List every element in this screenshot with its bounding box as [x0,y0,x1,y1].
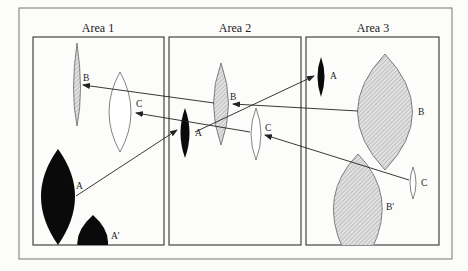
area3-label-C: C [421,178,427,188]
area2-shape-A [181,108,190,158]
area2-shape-B [214,63,229,145]
area1-shape-A-prime [77,215,108,249]
area-2-title: Area 2 [219,21,251,35]
area1-shape-A [41,149,75,245]
area2-shape-C [251,108,261,160]
area1-label-A: A [76,181,83,191]
area3-label-B: B [418,107,424,117]
arrow-b-area2-to-area1 [83,85,214,103]
area1-label-B: B [83,73,89,83]
area1-label-A-prime: A' [111,231,120,241]
area2-label-C: C [265,123,271,133]
area-3-title: Area 3 [357,21,389,35]
area-1-title: Area 1 [82,21,114,35]
area3-shape-B-prime [333,154,382,249]
arrow-c-area2-to-area1 [136,113,250,132]
dispersal-diagram: Area 1 Area 2 Area 3 B C A A' B A C A B … [0,0,468,271]
arrow-a-area1-to-area2 [76,130,177,196]
area3-shape-A [318,57,325,97]
area3-shape-B [358,54,413,170]
area1-shape-B [74,43,81,126]
arrow-b-area3-to-area2 [233,104,358,111]
area3-shape-C [410,167,416,199]
area3-label-A: A [330,71,337,81]
area3-label-B-prime: B' [386,202,394,212]
area1-shape-C [109,72,131,152]
area1-label-C: C [136,99,142,109]
area2-label-B: B [230,92,236,102]
